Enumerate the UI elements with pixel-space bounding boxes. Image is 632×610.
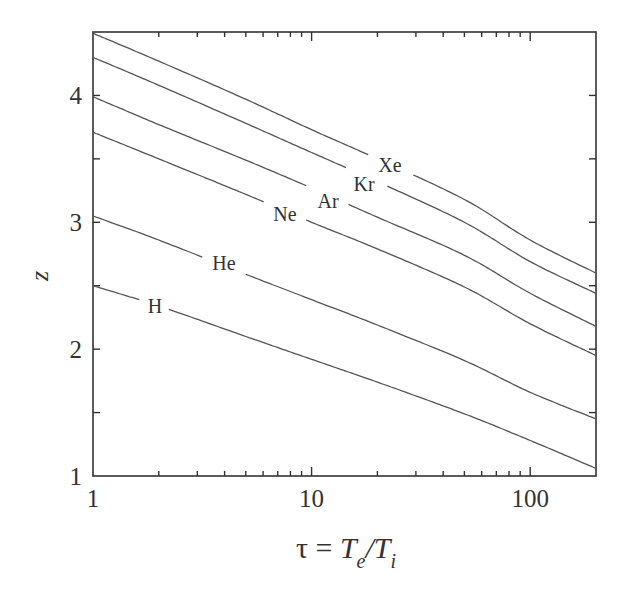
series-label-kr: Kr	[353, 173, 374, 195]
series-line-he	[93, 216, 202, 257]
series-line-xe	[93, 33, 368, 154]
x-axis-title: τ = Te/Ti	[296, 531, 396, 572]
y-tick-label: 2	[70, 336, 83, 363]
y-axis-ticks	[93, 95, 596, 412]
series-label-ar: Ar	[317, 190, 338, 212]
y-tick-label: 3	[70, 209, 83, 236]
series-line-ne	[93, 132, 264, 202]
y-axis-title: z	[25, 271, 54, 282]
series-line-h	[169, 309, 596, 468]
x-tick-label: 10	[299, 485, 324, 512]
x-tick-label: 1	[87, 485, 100, 512]
x-tick-label: 100	[511, 485, 549, 512]
x-axis-title-den-sub: i	[391, 550, 397, 572]
y-tick-label: 1	[70, 463, 83, 490]
series-label-xe: Xe	[378, 154, 401, 176]
series-line-ne	[306, 220, 596, 356]
y-tick-labels: 1234	[70, 82, 83, 490]
series-lines	[93, 33, 596, 468]
series-line-kr	[387, 186, 596, 293]
x-axis-title-num-sub: e	[357, 550, 366, 572]
series-line-h	[93, 286, 139, 300]
plot-frame	[93, 32, 596, 476]
x-tick-labels: 110100	[87, 485, 549, 512]
series-line-ar	[349, 204, 597, 326]
series-label-ne: Ne	[273, 203, 296, 225]
series-label-h: H	[148, 295, 162, 317]
y-tick-label: 4	[70, 82, 83, 109]
plot-border	[93, 32, 596, 476]
series-label-he: He	[212, 252, 235, 274]
chart: XeKrArNeHeH 110100 1234 z τ = Te/Ti	[0, 0, 632, 610]
series-line-xe	[413, 175, 596, 273]
x-axis-title-prefix: τ =	[296, 531, 340, 564]
series-labels: XeKrArNeHeH	[148, 154, 402, 317]
series-line-ar	[93, 97, 306, 186]
